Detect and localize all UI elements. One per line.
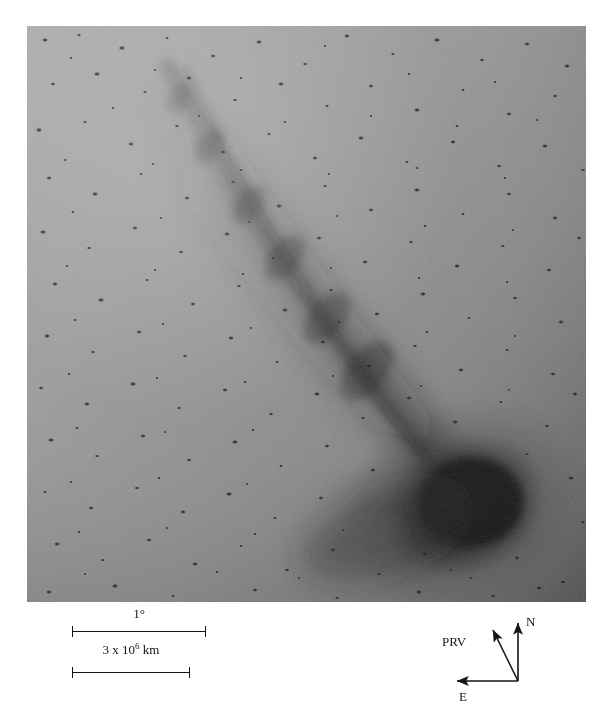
linear-scale-label: 3 x 106 km xyxy=(72,641,190,658)
linear-scale-bar xyxy=(72,666,190,678)
prv-arrow xyxy=(493,630,518,681)
east-label: E xyxy=(459,689,467,705)
figure-caption-sliver xyxy=(6,719,306,725)
compass-arrows xyxy=(440,608,560,708)
linear-scale-cap-right xyxy=(189,667,190,678)
angular-scale-label: 1° xyxy=(72,606,206,622)
north-label: N xyxy=(526,614,535,630)
angular-scale-cap-right xyxy=(205,626,206,637)
orientation-compass: N E PRV xyxy=(440,608,560,708)
plate-image xyxy=(27,26,586,602)
linear-scale-rule xyxy=(72,672,190,673)
prv-label: PRV xyxy=(442,634,466,650)
angular-scale-bar xyxy=(72,625,206,637)
angular-scale-cap-left xyxy=(72,626,73,637)
linear-scale-suffix: km xyxy=(140,642,160,657)
comet-photographic-plate xyxy=(27,26,586,602)
linear-scale-cap-left xyxy=(72,667,73,678)
plate-fine-grain xyxy=(27,26,586,602)
linear-scale-prefix: 3 x 10 xyxy=(103,642,136,657)
angular-scale-rule xyxy=(72,631,206,632)
